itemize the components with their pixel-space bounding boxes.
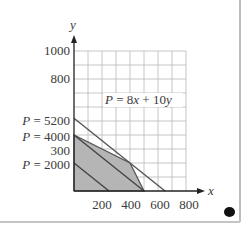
x-tick-400: 400 <box>121 197 141 212</box>
objective-label: P = 8x + 10y <box>104 92 172 107</box>
label-p5200: P = 5200 <box>21 113 70 128</box>
x-tick-200: 200 <box>92 197 112 212</box>
chart: y x 1000 800 300 P = 5200 P = 4000 P = 2… <box>0 0 252 232</box>
x-axis-label: x <box>207 183 214 198</box>
x-tick-800: 800 <box>179 197 199 212</box>
x-axis-arrow-icon <box>197 188 205 194</box>
x-tick-600: 600 <box>150 197 170 212</box>
y-tick-800: 800 <box>51 71 71 86</box>
y-axis-label: y <box>68 17 76 32</box>
y-axis-arrow-icon <box>71 35 77 43</box>
y-tick-1000: 1000 <box>44 43 70 58</box>
label-p2000: P = 2000 <box>21 157 70 172</box>
label-p4000: P = 4000 <box>21 129 70 144</box>
y-tick-300: 300 <box>51 143 71 158</box>
